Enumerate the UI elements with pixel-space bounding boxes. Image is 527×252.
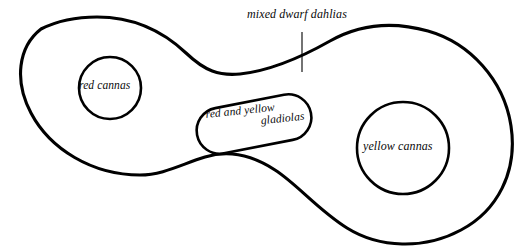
plot-label-yellow-cannas: yellow cannas <box>363 140 433 153</box>
plot-label-red-cannas: red cannas <box>79 79 130 91</box>
garden-bed-diagram: red cannas red and yellow gladiolas yell… <box>0 0 527 252</box>
callout-label-mixed-dwarf-dahlias: mixed dwarf dahlias <box>247 8 347 21</box>
